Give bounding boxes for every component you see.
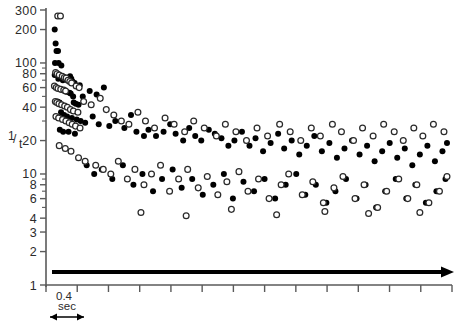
- data-point-open: [426, 200, 432, 206]
- data-point-open: [391, 129, 397, 135]
- data-point-filled: [139, 171, 145, 177]
- data-point-open: [274, 212, 280, 218]
- data-point-open: [414, 182, 420, 188]
- data-point-filled: [293, 171, 299, 177]
- data-point-open: [118, 118, 124, 124]
- data-point-filled: [101, 85, 107, 91]
- scatter-plot-figure: 30020010080604020108643211/t 0.4sec: [0, 0, 458, 321]
- data-point-open: [111, 112, 117, 118]
- scale-bar-unit-label: sec: [58, 300, 76, 312]
- data-point-open: [229, 206, 235, 212]
- y-axis-tick-label: 60: [22, 81, 37, 95]
- y-axis-tick-label: 20: [22, 134, 37, 148]
- data-point-open: [58, 13, 64, 19]
- data-point-open: [266, 196, 272, 202]
- data-point-filled: [52, 27, 58, 33]
- data-point-open: [100, 166, 106, 172]
- data-point-open: [108, 171, 114, 177]
- data-point-open: [126, 121, 132, 127]
- data-point-open: [183, 213, 189, 219]
- data-point-open: [236, 169, 242, 175]
- data-point-open: [317, 133, 323, 139]
- data-point-filled: [133, 129, 139, 135]
- data-point-filled: [272, 196, 278, 202]
- data-point-filled: [128, 112, 134, 118]
- data-point-filled: [90, 113, 96, 119]
- data-point-filled: [281, 145, 287, 151]
- data-point-open: [76, 155, 82, 161]
- data-point-open: [233, 129, 239, 135]
- data-point-open: [82, 158, 88, 164]
- data-point-open: [141, 182, 147, 188]
- data-point-open: [138, 210, 144, 216]
- data-point-open: [396, 176, 402, 182]
- data-point-filled: [153, 133, 159, 139]
- data-point-filled: [311, 133, 317, 139]
- data-point-filled: [439, 148, 445, 154]
- data-point-open: [400, 138, 406, 144]
- data-point-filled: [210, 182, 216, 188]
- data-point-open: [191, 118, 197, 124]
- data-point-open: [149, 171, 155, 177]
- data-point-filled: [150, 188, 156, 194]
- data-point-filled: [319, 148, 325, 154]
- data-point-open: [185, 166, 191, 172]
- data-point-filled: [402, 145, 408, 151]
- data-point-open: [244, 138, 250, 144]
- data-point-filled: [221, 171, 227, 177]
- data-point-open: [63, 88, 69, 94]
- data-point-open: [124, 176, 130, 182]
- y-axis-tick-label: 3: [30, 226, 37, 240]
- y-axis-tick-label: 200: [15, 23, 37, 37]
- y-axis-tick-label: 4: [30, 212, 37, 226]
- data-point-filled: [268, 140, 274, 146]
- data-point-open: [375, 205, 381, 211]
- data-point-open: [115, 158, 121, 164]
- data-point-open: [417, 210, 423, 216]
- data-point-filled: [394, 155, 400, 161]
- data-point-open: [182, 129, 188, 135]
- data-point-filled: [200, 192, 206, 198]
- data-point-open: [339, 129, 345, 135]
- data-point-open: [320, 200, 326, 206]
- data-point-open: [75, 109, 81, 115]
- data-point-filled: [173, 131, 179, 137]
- data-point-filled: [409, 162, 415, 168]
- data-point-open: [77, 125, 83, 131]
- data-point-open: [351, 138, 357, 144]
- data-point-filled: [357, 151, 363, 157]
- data-point-open: [201, 125, 207, 131]
- data-point-filled: [326, 140, 332, 146]
- data-point-open: [331, 185, 337, 191]
- data-point-filled: [159, 176, 165, 182]
- data-point-open: [76, 85, 82, 91]
- data-point-open: [93, 162, 99, 168]
- data-point-open: [366, 211, 372, 217]
- data-point-filled: [112, 118, 118, 124]
- data-point-open: [132, 166, 138, 172]
- data-point-filled: [304, 143, 310, 149]
- data-point-open: [420, 133, 426, 139]
- data-point-open: [265, 133, 271, 139]
- data-point-filled: [225, 143, 231, 149]
- data-points-group: [52, 13, 450, 219]
- data-point-open: [437, 188, 443, 194]
- data-point-filled: [262, 176, 268, 182]
- data-point-filled: [189, 176, 195, 182]
- data-point-open: [352, 196, 358, 202]
- data-point-filled: [130, 182, 136, 188]
- data-point-filled: [55, 48, 61, 54]
- data-point-open: [224, 179, 230, 185]
- data-point-filled: [444, 140, 450, 146]
- data-point-open: [245, 188, 251, 194]
- data-point-filled: [424, 143, 430, 149]
- data-point-open: [299, 192, 305, 198]
- data-point-filled: [240, 179, 246, 185]
- y-axis-tick-label: 6: [30, 192, 37, 206]
- data-point-filled: [91, 171, 97, 177]
- data-point-open: [152, 125, 158, 131]
- data-point-open: [361, 182, 367, 188]
- series-filled-circles: [52, 27, 450, 211]
- data-point-filled: [66, 129, 72, 135]
- data-point-open: [330, 121, 336, 127]
